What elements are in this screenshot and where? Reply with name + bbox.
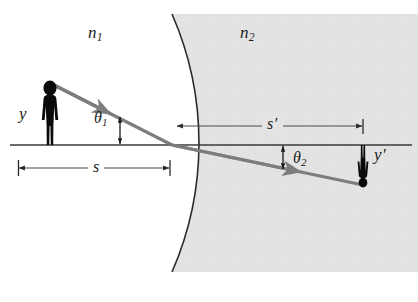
label-object-distance-s: s xyxy=(88,159,104,175)
label-image-distance-s-prime: s′ xyxy=(262,116,283,132)
n1-subscript: 1 xyxy=(97,31,103,44)
label-object-height-y: y xyxy=(19,105,27,122)
label-theta1: θ1 xyxy=(94,110,107,128)
n2-base: n xyxy=(240,23,249,42)
theta1-subscript: 1 xyxy=(102,116,107,128)
incident-ray xyxy=(50,83,172,145)
n2-subscript: 2 xyxy=(249,31,255,44)
refraction-diagram: n1 n2 θ1 θ2 y y′ s s′ xyxy=(0,0,418,302)
label-image-height-y-prime: y′ xyxy=(374,146,386,163)
theta2-subscript: 2 xyxy=(301,156,306,168)
n1-base: n xyxy=(88,23,97,42)
label-refractive-index-n2: n2 xyxy=(240,24,254,44)
theta1-base: θ xyxy=(94,109,102,126)
theta2-base: θ xyxy=(293,149,301,166)
medium-n2-region xyxy=(172,14,418,272)
label-theta2: θ2 xyxy=(293,150,306,168)
label-refractive-index-n1: n1 xyxy=(88,24,102,44)
object-person-figure xyxy=(42,81,58,145)
diagram-canvas xyxy=(0,0,418,302)
